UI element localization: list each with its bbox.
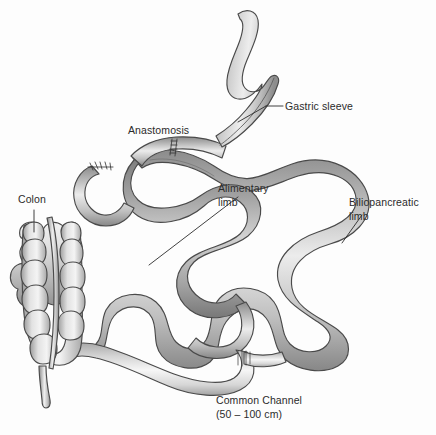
label-common-channel-line2: (50 – 100 cm) (216, 408, 282, 420)
label-anastomosis: Anastomosis (128, 124, 189, 136)
label-alimentary-limb-line2: limb (218, 196, 238, 208)
bariatric-surgery-diagram: Gastric sleeve Anastomosis Alimentary li… (0, 0, 436, 435)
label-biliopancreatic-limb-line2: limb (349, 210, 369, 222)
diagram-background (0, 0, 436, 435)
label-biliopancreatic-limb-line1: Biliopancreatic (349, 196, 419, 208)
label-colon: Colon (18, 193, 46, 205)
label-alimentary-limb-line1: Alimentary (218, 182, 269, 194)
diagram-canvas: Gastric sleeve Anastomosis Alimentary li… (0, 0, 436, 435)
label-gastric-sleeve: Gastric sleeve (285, 100, 353, 112)
label-common-channel-line1: Common Channel (216, 394, 302, 406)
